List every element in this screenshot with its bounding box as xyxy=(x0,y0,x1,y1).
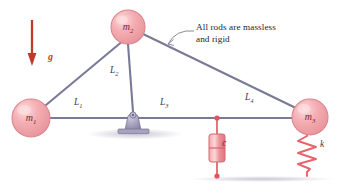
mass-label-m2: m2 xyxy=(123,21,134,34)
rod-label-L2: L2 xyxy=(110,66,119,78)
annotation-leader xyxy=(168,31,194,46)
figure-canvas: All rods are massless and rigid g L1 L2 … xyxy=(0,0,339,194)
spring-element xyxy=(298,131,316,176)
rod-label-L4: L4 xyxy=(245,93,254,105)
pivot-support xyxy=(118,112,149,134)
damper-label: c xyxy=(222,139,226,149)
spring-label: k xyxy=(320,140,324,150)
rod-label-L3: L3 xyxy=(160,98,169,110)
ground-shadow-right xyxy=(190,176,334,182)
rod-label-L1: L1 xyxy=(74,98,83,110)
mass-label-m1: m1 xyxy=(26,112,37,125)
schematic-svg xyxy=(0,0,339,194)
gravity-arrow-icon xyxy=(28,20,37,66)
rod-L2 xyxy=(128,44,133,112)
annotation-text: All rods are massless and rigid xyxy=(196,22,276,45)
mass-label-m3: m3 xyxy=(305,111,316,124)
gravity-label: g xyxy=(48,52,53,63)
